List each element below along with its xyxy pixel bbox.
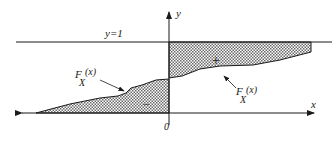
curve-label-right: F X (x) xyxy=(224,76,258,105)
svg-text:X: X xyxy=(78,77,86,88)
x-axis-label: x xyxy=(310,98,316,110)
svg-text:(x): (x) xyxy=(85,66,97,78)
pointer-arrow-right xyxy=(224,76,236,88)
y-equals-one-label: y=1 xyxy=(104,27,123,39)
origin-label: 0 xyxy=(164,121,169,132)
curve-label-left: F X (x) xyxy=(74,66,124,91)
pointer-arrow-left xyxy=(100,80,124,91)
svg-text:X: X xyxy=(239,94,247,105)
cdf-diagram: y x 0 y=1 + − F X (x) F X (x) xyxy=(0,0,332,143)
positive-sign: + xyxy=(212,53,220,68)
positive-area-region xyxy=(169,42,311,78)
negative-sign: − xyxy=(143,97,150,111)
y-axis-label: y xyxy=(175,7,181,19)
svg-text:(x): (x) xyxy=(246,84,258,96)
